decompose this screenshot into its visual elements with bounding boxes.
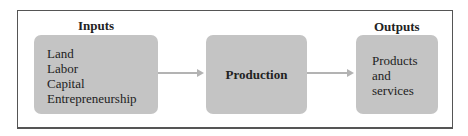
output-item-services: services (372, 83, 438, 98)
input-item-land: Land (47, 46, 158, 61)
arrow-production-to-outputs (307, 72, 352, 74)
production-box: Production (206, 35, 307, 114)
input-item-capital: Capital (47, 76, 158, 91)
input-item-labor: Labor (47, 61, 158, 76)
arrow-inputs-to-production (158, 72, 202, 74)
inputs-box: Land Labor Capital Entrepreneurship (34, 35, 158, 114)
outputs-title: Outputs (374, 19, 420, 35)
input-item-entrepreneurship: Entrepreneurship (47, 91, 158, 106)
production-label: Production (226, 67, 288, 82)
outputs-box: Products and services (356, 35, 438, 114)
inputs-title: Inputs (78, 18, 114, 34)
output-item-and: and (372, 68, 438, 83)
output-item-products: Products (372, 53, 438, 68)
